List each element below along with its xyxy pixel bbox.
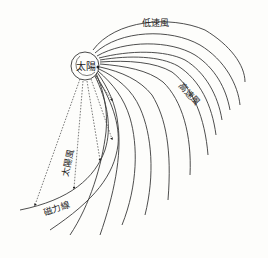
solar-wind-diagram: 太陽 低速風 高速風 太陽風 磁力線 xyxy=(0,0,268,258)
sun-dot xyxy=(97,66,100,69)
wind-ray xyxy=(35,79,80,205)
fast-wind-label: 高速風 xyxy=(177,80,203,107)
magnetic-field-lines xyxy=(20,22,245,235)
slow-wind-label: 低速風 xyxy=(142,17,169,28)
field-line xyxy=(20,74,108,210)
field-line xyxy=(100,64,190,175)
wind-ray xyxy=(87,81,100,160)
field-line xyxy=(99,52,222,120)
solar-wind-label: 太陽風 xyxy=(59,149,75,178)
sun: 太陽 xyxy=(71,52,100,80)
field-line xyxy=(93,22,245,82)
wind-ray xyxy=(74,81,83,188)
sun-label: 太陽 xyxy=(76,60,96,72)
field-line xyxy=(100,61,208,155)
field-line-label: 磁力線 xyxy=(42,198,71,218)
